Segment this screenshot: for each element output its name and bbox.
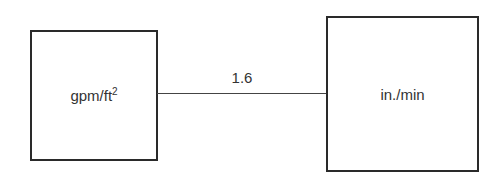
unit-box-in-per-min: in./min (326, 16, 479, 172)
unit-label-gpm-per-sqft: gpm/ft2 (70, 87, 117, 104)
unit-box-gpm-per-sqft: gpm/ft2 (30, 30, 158, 161)
conversion-factor-label: 1.6 (222, 69, 262, 86)
unit-label-in-per-min: in./min (380, 86, 424, 103)
conversion-connector-line (157, 93, 327, 94)
